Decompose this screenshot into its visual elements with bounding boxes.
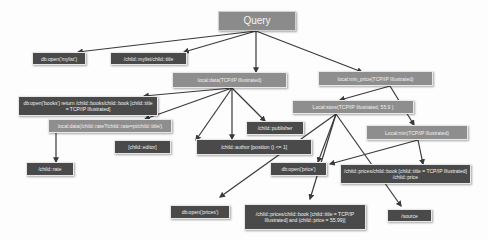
node-label: /source xyxy=(401,213,417,219)
node-label: /child::prices/child::book [child::title… xyxy=(248,211,362,223)
node-label: db:open('books') return /child::books/ch… xyxy=(22,100,154,112)
edge-min-to-price xyxy=(330,140,418,164)
node-local-min: Local:min(TCP/IP Illustrated) xyxy=(366,125,468,140)
node-child-publisher: /child::publisher xyxy=(246,121,304,135)
node-db-open-mylist: db:open('mylist') xyxy=(32,52,86,65)
node-child-editor: [child::editor] xyxy=(114,140,171,154)
node-db-open-books: db:open('books') return /child::books/ch… xyxy=(18,96,158,116)
node-label: /child::mylist/child::title xyxy=(124,56,173,62)
edge-query-to-dbopen-mylist xyxy=(78,31,256,52)
node-label: db:open('mylist') xyxy=(41,56,77,62)
query-label: Query xyxy=(243,18,270,24)
edge-localdata-to-dbopen-books xyxy=(144,88,232,96)
edge-query-to-min-price xyxy=(256,31,362,72)
edge-localdata-to-local-data-path xyxy=(145,88,232,119)
node-label: local:min_price(TCP/IP Illustrated) xyxy=(338,76,414,82)
node-local-store: Local:store(TCP/IP Illustrated, 55.9 ) xyxy=(292,100,414,114)
node-label: [child::editor] xyxy=(128,144,156,150)
node-source: /source xyxy=(387,209,432,222)
node-label: Local:min(TCP/IP Illustrated) xyxy=(385,130,449,136)
node-label: /child::publisher xyxy=(258,125,293,131)
node-label: Local:store(TCP/IP Illustrated, 55.9 ) xyxy=(313,104,394,110)
edge-localdata-to-editor xyxy=(196,88,232,140)
node-child-prices-book-and: /child::prices/child::book [child::title… xyxy=(244,204,366,230)
node-label: /child::prices/child::book [child::title… xyxy=(344,168,467,180)
node-child-rate: /child::rate xyxy=(26,162,74,176)
edge-query-to-title xyxy=(184,31,256,52)
node-label: local:data(TCP/IP Illustrated) xyxy=(198,77,262,83)
node-label: db:open('price') xyxy=(281,166,315,172)
node-local-data-path: local:data(/child::rate?/child::rate=pt/… xyxy=(48,119,172,133)
node-db-open-prices: db:open('prices') xyxy=(170,205,230,219)
node-local-data: local:data(TCP/IP Illustrated) xyxy=(172,72,287,88)
node-label: local:data(/child::rate?/child::rate=pt/… xyxy=(58,123,162,129)
node-label: db:open('prices') xyxy=(182,209,219,215)
node-label: /child::author [position () <= 1] xyxy=(221,144,287,150)
node-label: /child::rate xyxy=(38,166,61,172)
node-child-prices-book: /child::prices/child::book [child::title… xyxy=(340,164,471,184)
node-child-author: /child::author [position () <= 1] xyxy=(196,139,312,155)
edge-min-to-prices-book xyxy=(418,140,423,164)
node-child-mylist-title: /child::mylist/child::title xyxy=(110,52,187,65)
edge-minprice-to-store xyxy=(340,86,390,100)
edge-store-to-prices-and xyxy=(310,114,336,199)
node-db-open-price: db:open('price') xyxy=(270,162,327,176)
query-node: Query xyxy=(218,11,296,31)
edge-localdata-to-publisher xyxy=(232,88,265,121)
node-local-min-price: local:min_price(TCP/IP Illustrated) xyxy=(318,71,433,86)
